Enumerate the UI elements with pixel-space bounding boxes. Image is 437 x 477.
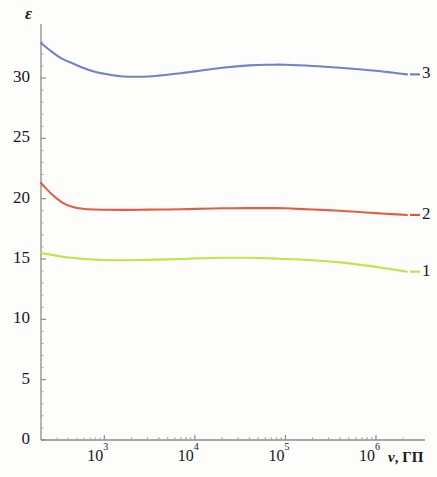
x-tick-mantissa: 10 xyxy=(178,447,194,464)
x-tick-exponent: 6 xyxy=(375,441,380,452)
x-tick-exponent: 5 xyxy=(284,441,289,452)
curve-label-1: 1 xyxy=(422,261,431,281)
data-curves-group xyxy=(41,43,407,272)
x-tick-mantissa: 10 xyxy=(359,447,375,464)
curve-3 xyxy=(41,43,407,77)
x-tick-label: 105 xyxy=(268,446,289,465)
y-tick-label: 0 xyxy=(4,429,30,449)
chart-canvas xyxy=(0,0,437,477)
y-axis-label: ε xyxy=(25,4,32,24)
figure-container: ε ν, ГП 302520151050 103104105106 321 xyxy=(0,0,437,477)
y-tick-label: 25 xyxy=(4,127,30,147)
x-tick-label: 103 xyxy=(87,446,108,465)
y-tick-label: 20 xyxy=(4,188,30,208)
x-axis-label-symbol: ν xyxy=(388,449,395,465)
curve-1 xyxy=(41,253,407,272)
tick-marks-group xyxy=(41,42,403,440)
axes-group xyxy=(41,24,425,440)
y-tick-label: 15 xyxy=(4,248,30,268)
x-tick-exponent: 3 xyxy=(103,441,108,452)
x-tick-mantissa: 10 xyxy=(268,447,284,464)
curve-label-3: 3 xyxy=(422,63,431,83)
y-tick-label: 30 xyxy=(4,67,30,87)
curve-label-2: 2 xyxy=(422,204,431,224)
x-tick-label: 106 xyxy=(359,446,380,465)
x-axis-label-units: , ГП xyxy=(395,449,424,465)
x-tick-exponent: 4 xyxy=(194,441,199,452)
curve-leader-lines-group xyxy=(410,74,420,271)
x-axis-label: ν, ГП xyxy=(388,449,423,466)
curve-2 xyxy=(41,183,407,215)
x-tick-label: 104 xyxy=(178,446,199,465)
y-tick-label: 5 xyxy=(4,369,30,389)
x-tick-mantissa: 10 xyxy=(87,447,103,464)
y-tick-label: 10 xyxy=(4,308,30,328)
